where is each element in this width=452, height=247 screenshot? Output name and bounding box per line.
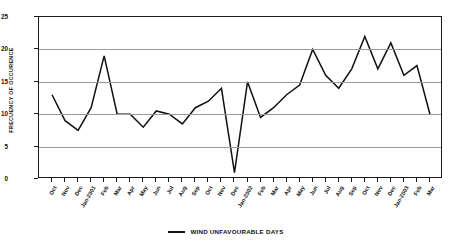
x-tick-label-text: May: [138, 184, 149, 197]
x-tick-label-text: Aug: [334, 184, 345, 197]
plot-area: [38, 16, 442, 178]
x-tick-mark-14: [233, 178, 234, 182]
x-tick-mark-23: [351, 178, 352, 182]
x-tick-label-text: Feb: [256, 184, 267, 196]
x-tick-label-text: Sep: [191, 184, 202, 197]
x-tick-label-text: Mar: [113, 184, 124, 196]
x-tick-label-text: Feb: [100, 184, 111, 196]
x-tick-label-text: Apr: [126, 184, 137, 196]
gridline-5: [39, 147, 441, 148]
x-tick-mark-9: [168, 178, 169, 182]
x-tick-label-text: Mar: [269, 184, 280, 196]
y-axis-title: FRECUENCY OF OCCURENCE: [0, 0, 22, 180]
y-axis-title-text: FRECUENCY OF OCCURENCE: [8, 47, 14, 132]
x-tick-label-text: Dec: [386, 184, 397, 197]
gridline-10: [39, 114, 441, 115]
gridline-15: [39, 82, 441, 83]
x-tick-label-text: Jul: [166, 184, 176, 195]
x-tick-mark-17: [273, 178, 274, 182]
legend-label: WIND UNFAVOURABLE DAYS: [190, 228, 283, 235]
x-tick-mark-3: [90, 178, 91, 182]
x-tick-mark-8: [155, 178, 156, 182]
x-tick-mark-27: [403, 178, 404, 182]
x-tick-mark-16: [260, 178, 261, 182]
x-tick-label-text: May: [295, 184, 306, 197]
chart-legend: WIND UNFAVOURABLE DAYS: [0, 228, 452, 235]
x-tick-mark-4: [103, 178, 104, 182]
y-tick-label-15: 15: [0, 77, 8, 84]
x-tick-label-text: Jun: [308, 184, 319, 196]
x-tick-mark-19: [299, 178, 300, 182]
y-tick-label-20: 20: [0, 45, 8, 52]
x-tick-label-text: Sep: [347, 184, 358, 197]
x-tick-mark-2: [77, 178, 78, 182]
x-tick-label-text: Apr: [282, 184, 293, 196]
x-tick-mark-12: [207, 178, 208, 182]
x-tick-mark-22: [338, 178, 339, 182]
x-tick-label-text: Jun: [152, 184, 163, 196]
x-tick-label-text: Aug: [177, 184, 188, 197]
y-tick-label-25: 25: [0, 13, 8, 20]
x-tick-mark-18: [286, 178, 287, 182]
x-tick-label-text: Nov: [217, 184, 228, 197]
x-tick-mark-20: [312, 178, 313, 182]
x-tick-label-text: Jul: [322, 184, 332, 195]
plot-inner: [39, 17, 441, 177]
chart-figure: FRECUENCY OF OCCURENCE 0510152025 OctNov…: [0, 0, 452, 247]
x-tick-label-text: Oct: [48, 184, 58, 196]
x-tick-mark-28: [416, 178, 417, 182]
y-tick-label-0: 0: [0, 175, 8, 182]
x-tick-mark-6: [129, 178, 130, 182]
x-tick-label-text: Dec: [230, 184, 241, 197]
x-tick-label-text: Nov: [60, 184, 71, 197]
x-tick-label-text: Oct: [361, 184, 371, 196]
x-tick-mark-21: [325, 178, 326, 182]
x-tick-mark-7: [142, 178, 143, 182]
legend-line-swatch: [168, 231, 185, 233]
x-tick-mark-10: [181, 178, 182, 182]
x-tick-mark-29: [429, 178, 430, 182]
x-tick-mark-26: [390, 178, 391, 182]
x-tick-mark-5: [116, 178, 117, 182]
y-tick-mark-0: [34, 178, 38, 179]
x-tick-label-text: Dec: [73, 184, 84, 197]
data-series-wind-unfavourable-days: [39, 17, 441, 177]
y-tick-label-5: 5: [0, 142, 8, 149]
x-tick-mark-0: [51, 178, 52, 182]
x-tick-mark-13: [220, 178, 221, 182]
x-tick-mark-24: [364, 178, 365, 182]
x-tick-mark-15: [247, 178, 248, 182]
line-series-path: [52, 36, 430, 172]
x-tick-label-text: Oct: [204, 184, 214, 196]
gridline-20: [39, 49, 441, 50]
y-tick-label-10: 10: [0, 110, 8, 117]
x-tick-mark-25: [377, 178, 378, 182]
x-tick-label-text: Mar: [425, 184, 436, 196]
x-tick-mark-1: [64, 178, 65, 182]
x-tick-mark-11: [194, 178, 195, 182]
x-tick-label-text: Nov: [373, 184, 384, 197]
x-tick-label-text: Feb: [412, 184, 423, 196]
